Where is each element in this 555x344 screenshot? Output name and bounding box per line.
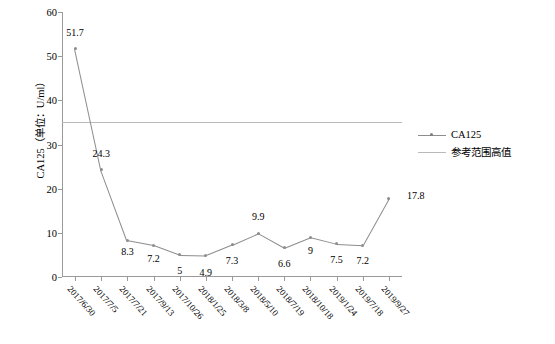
x-tick-mark	[363, 277, 364, 281]
x-tick-mark	[127, 277, 128, 281]
data-point-label: 17.8	[407, 190, 425, 201]
legend-item-ca125: CA125	[418, 126, 511, 143]
series-line-segment	[232, 233, 259, 245]
data-point-label: 9	[308, 245, 313, 256]
y-tick-mark	[58, 233, 62, 234]
data-point	[361, 244, 364, 247]
data-point-label: 7.2	[357, 255, 370, 266]
data-point	[100, 168, 103, 171]
x-tick-mark	[389, 277, 390, 281]
x-tick-mark	[284, 277, 285, 281]
y-tick-label: 60	[47, 7, 58, 18]
data-point	[126, 239, 129, 242]
y-tick-label: 50	[47, 51, 58, 62]
legend-marker-reference	[418, 147, 446, 157]
data-point-label: 24.3	[92, 148, 110, 159]
legend-label-ca125: CA125	[451, 129, 481, 140]
x-tick-mark	[310, 277, 311, 281]
series-line-segment	[363, 198, 390, 245]
series-line-segment	[180, 255, 206, 256]
x-tick-mark	[101, 277, 102, 281]
series-line-segment	[337, 244, 363, 246]
series-line-segment	[258, 233, 285, 248]
y-tick-label: 0	[52, 272, 57, 283]
y-tick-label: 10	[47, 227, 58, 238]
data-point	[283, 246, 286, 249]
legend-label-reference: 参考范围高值	[451, 144, 511, 159]
data-point-label: 7.5	[330, 254, 343, 265]
x-tick-mark	[232, 277, 233, 281]
y-axis-line	[62, 12, 63, 277]
data-point-label: 7.2	[147, 253, 160, 264]
ca125-line-chart: CA125（单位：U/ml） 0102030405060 2017/6/3020…	[0, 0, 555, 344]
data-point-label: 5	[177, 265, 182, 276]
series-line-segment	[127, 240, 153, 246]
x-tick-mark	[180, 277, 181, 281]
y-tick-mark	[58, 100, 62, 101]
x-tick-mark	[337, 277, 338, 281]
series-line-segment	[284, 237, 311, 249]
y-tick-mark	[58, 277, 62, 278]
data-point-label: 9.9	[252, 211, 265, 222]
y-tick-mark	[58, 145, 62, 146]
y-tick-mark	[58, 12, 62, 13]
y-tick-label: 30	[47, 139, 58, 150]
series-line-segment	[100, 170, 127, 241]
x-tick-mark	[154, 277, 155, 281]
legend: CA125 参考范围高值	[418, 126, 511, 160]
series-line-segment	[310, 237, 336, 245]
y-axis-title: CA125（单位：U/ml）	[32, 43, 47, 213]
data-point	[204, 254, 207, 257]
data-point-label: 51.7	[66, 27, 84, 38]
y-tick-mark	[58, 56, 62, 57]
data-point	[231, 243, 234, 246]
data-point-label: 4.9	[200, 267, 213, 278]
data-point-label: 8.3	[121, 246, 134, 257]
reference-line	[62, 122, 402, 123]
data-point	[387, 197, 390, 200]
legend-item-reference: 参考范围高值	[418, 143, 511, 160]
data-point	[74, 47, 77, 50]
data-point	[309, 236, 312, 239]
y-tick-mark	[58, 189, 62, 190]
y-tick-label: 40	[47, 95, 58, 106]
x-tick-mark	[75, 277, 76, 281]
x-tick-mark	[258, 277, 259, 281]
y-tick-label: 20	[47, 183, 58, 194]
data-point-label: 7.3	[226, 255, 239, 266]
data-point	[152, 244, 155, 247]
plot-area: 0102030405060 2017/6/302017/7/52017/7/21…	[62, 12, 402, 277]
data-point	[257, 232, 260, 235]
data-point-label: 6.6	[278, 258, 291, 269]
legend-marker-ca125	[418, 130, 446, 140]
